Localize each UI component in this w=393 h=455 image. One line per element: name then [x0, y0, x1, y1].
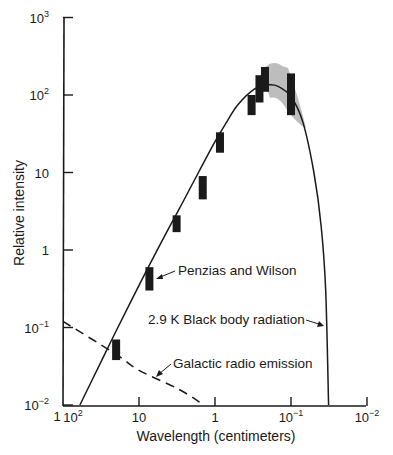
arrow-head-penzias: [156, 274, 163, 279]
annotation-galactic: Galactic radio emission: [173, 356, 313, 371]
y-axis: [63, 17, 64, 406]
measurement-bar: [199, 176, 207, 199]
y-tick-label: 1: [42, 243, 49, 258]
y-axis-ticks: 10310210110−110−2: [24, 9, 73, 414]
annotation-penzias-wilson: Penzias and Wilson: [178, 263, 297, 278]
measurement-bar: [112, 340, 120, 361]
y-axis-title: Relative intensity: [11, 160, 27, 266]
y-tick-label: 103: [30, 9, 49, 26]
x-tick-label: 1: [211, 410, 218, 425]
x-axis-ticks: 10210110−110−2: [63, 397, 379, 425]
y-tick-label: 10−1: [24, 319, 49, 336]
x-tick-label: 10−1: [279, 408, 304, 425]
y-tick-label: 10−2: [24, 396, 49, 413]
x-axis-title: Wavelength (centimeters): [137, 428, 296, 444]
axis-artifact: 1: [53, 409, 60, 424]
y-tick-label: 10: [35, 166, 49, 181]
measurement-bar: [248, 95, 256, 115]
cmb-spectrum-chart: 10310210110−110−2 10210110−110−2 Relativ…: [0, 0, 393, 455]
x-tick-label: 102: [63, 408, 82, 425]
x-tick-label: 10−2: [355, 408, 380, 425]
measurement-bar: [216, 132, 224, 152]
x-tick-label: 10: [132, 410, 146, 425]
y-tick-label: 102: [30, 86, 49, 103]
measurement-bar: [261, 67, 269, 92]
annotation-blackbody: 2.9 K Black body radiation: [148, 312, 305, 327]
measurement-bar: [145, 267, 153, 290]
arrow-head-blackbody: [317, 321, 324, 327]
measurement-bar: [287, 73, 295, 115]
measurement-bar: [173, 215, 181, 232]
